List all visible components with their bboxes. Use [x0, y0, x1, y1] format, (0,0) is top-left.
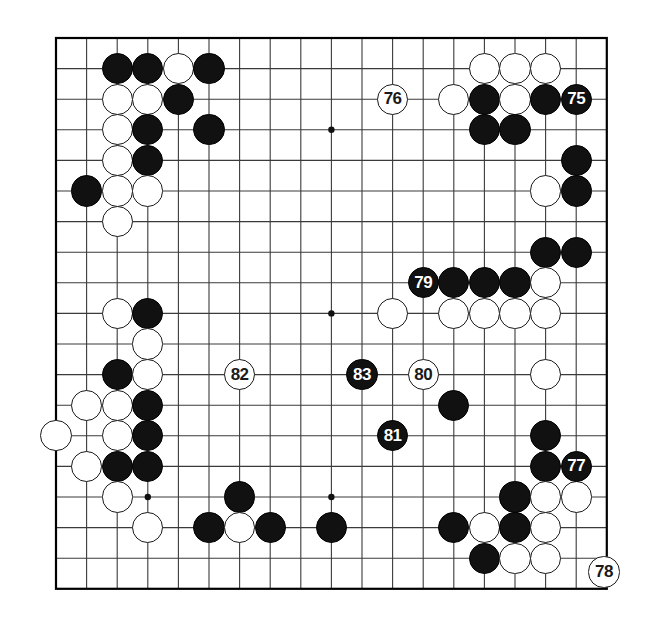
black-stone[interactable] [193, 512, 224, 543]
white-stone[interactable] [163, 53, 194, 84]
white-stone[interactable] [102, 175, 133, 206]
white-stone[interactable] [102, 206, 133, 237]
black-stone[interactable] [469, 84, 500, 115]
move-number-label: 80 [414, 366, 432, 383]
numbered-stone-79[interactable]: 79 [408, 267, 439, 298]
black-stone[interactable] [561, 175, 592, 206]
white-stone[interactable] [469, 512, 500, 543]
black-stone[interactable] [102, 359, 133, 390]
white-stone[interactable] [469, 53, 500, 84]
move-number-label: 75 [567, 90, 585, 107]
star-point [328, 127, 334, 133]
white-stone[interactable] [102, 84, 133, 115]
black-stone[interactable] [530, 451, 561, 482]
black-stone[interactable] [561, 237, 592, 268]
white-stone[interactable] [530, 298, 561, 329]
star-point [328, 310, 334, 316]
numbered-stone-80[interactable]: 80 [408, 359, 439, 390]
star-point [145, 494, 151, 500]
white-stone[interactable] [71, 451, 102, 482]
move-number-label: 78 [595, 563, 613, 580]
move-number-label: 79 [414, 274, 432, 291]
move-number-label: 81 [384, 427, 402, 444]
black-stone[interactable] [102, 451, 133, 482]
black-stone[interactable] [132, 390, 163, 421]
white-stone[interactable] [438, 84, 469, 115]
white-stone[interactable] [499, 84, 530, 115]
black-stone[interactable] [469, 543, 500, 574]
black-stone[interactable] [193, 114, 224, 145]
white-stone[interactable] [132, 175, 163, 206]
white-stone[interactable] [377, 298, 408, 329]
white-stone[interactable] [102, 114, 133, 145]
move-number-label: 77 [567, 457, 585, 474]
black-stone[interactable] [530, 237, 561, 268]
white-stone[interactable] [102, 390, 133, 421]
numbered-stone-83[interactable]: 83 [346, 359, 377, 390]
white-stone[interactable] [102, 145, 133, 176]
white-stone[interactable] [102, 298, 133, 329]
go-board-diagram: 767579828380817778 [0, 0, 649, 644]
black-stone[interactable] [163, 84, 194, 115]
white-stone[interactable] [40, 420, 71, 451]
numbered-stone-75[interactable]: 75 [561, 84, 592, 115]
white-stone[interactable] [499, 298, 530, 329]
black-stone[interactable] [255, 512, 286, 543]
black-stone[interactable] [193, 53, 224, 84]
numbered-stone-78[interactable]: 78 [588, 556, 619, 587]
black-stone[interactable] [224, 481, 255, 512]
white-stone[interactable] [71, 390, 102, 421]
black-stone[interactable] [499, 512, 530, 543]
white-stone[interactable] [102, 420, 133, 451]
white-stone[interactable] [132, 328, 163, 359]
black-stone[interactable] [499, 114, 530, 145]
white-stone[interactable] [499, 53, 530, 84]
white-stone[interactable] [530, 543, 561, 574]
black-stone[interactable] [499, 481, 530, 512]
numbered-stone-77[interactable]: 77 [561, 451, 592, 482]
move-number-label: 83 [353, 366, 371, 383]
numbered-stone-76[interactable]: 76 [377, 84, 408, 115]
move-number-label: 82 [231, 366, 249, 383]
white-stone[interactable] [102, 481, 133, 512]
black-stone[interactable] [102, 53, 133, 84]
black-stone[interactable] [438, 390, 469, 421]
black-stone[interactable] [530, 84, 561, 115]
white-stone[interactable] [561, 481, 592, 512]
move-number-label: 76 [384, 90, 402, 107]
star-point [328, 494, 334, 500]
white-stone[interactable] [499, 543, 530, 574]
white-stone[interactable] [530, 481, 561, 512]
white-stone[interactable] [530, 175, 561, 206]
black-stone[interactable] [499, 267, 530, 298]
black-stone[interactable] [71, 175, 102, 206]
black-stone[interactable] [561, 145, 592, 176]
white-stone[interactable] [132, 84, 163, 115]
black-stone[interactable] [316, 512, 347, 543]
white-stone[interactable] [469, 298, 500, 329]
